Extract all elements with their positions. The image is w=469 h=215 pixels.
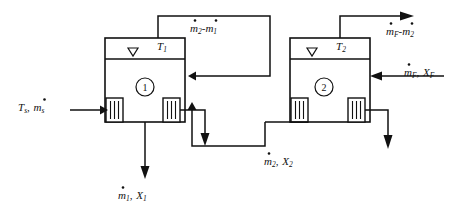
feed-inlet-label-text: mF, XF [404, 66, 435, 80]
vapor-1-to-2-arrowhead [188, 72, 196, 81]
label-vapor-effect2-outlet: mF-m2 [386, 22, 414, 39]
stream-product-effect1-pipe [141, 122, 150, 179]
effect-2-number-label: 2 [322, 82, 327, 93]
effect-1-temperature-label: T1 [157, 40, 167, 54]
stream-liquor-effect2-to-effect1-pipe [188, 102, 266, 146]
stream-condensate-effect2-pipe [365, 110, 393, 149]
liquor-2-flow-dot-icon [268, 152, 271, 155]
feed-inlet-arrowhead [370, 72, 382, 81]
effect-1-level-indicator-icon [128, 48, 138, 56]
label-steam-inlet: Ts, ms [18, 98, 46, 115]
feed-flow-dot-icon [408, 63, 411, 66]
liquor-2-to-1-arrowhead [188, 102, 197, 110]
label-liquor-effect2-to-effect1: m2, X2 [264, 152, 293, 169]
effect-2-tube-bundle-left [291, 98, 308, 122]
label-feed-inlet: mF, XF [404, 63, 435, 80]
effect-1-number-label: 1 [143, 82, 148, 93]
vapor-out-flow-dot-icon-a [390, 22, 393, 25]
evaporator-diagram: 1 T1 2 T2 [0, 0, 469, 215]
vapor-1-to-2-label-text: m2-m1 [190, 22, 217, 36]
steam-inlet-label-text: Ts, ms [18, 101, 45, 115]
label-product-effect1: m1, X1 [118, 186, 147, 203]
effect-2-tube-bundle-right [348, 98, 365, 122]
product-1-label-text: m1, X1 [118, 189, 147, 203]
vapor-1-flow-dot-icon [194, 19, 197, 22]
effect-1-tube-bundle-right [163, 98, 180, 122]
product-1-arrowhead [141, 166, 150, 179]
condensate-2-arrowhead [384, 135, 393, 149]
steam-flow-dot-icon [43, 98, 46, 101]
effect-1-tube-bundle-left [106, 98, 123, 122]
vapor-1-to-2-line [158, 16, 270, 76]
liquor-2-label-text: m2, X2 [264, 155, 293, 169]
vapor-out-flow-dot-icon-b [411, 22, 414, 25]
vapor-2-flow-dot-icon [215, 19, 218, 22]
stream-vapor-effect1-to-effect2-pipe [158, 16, 270, 81]
liquor-2-to-1-line [192, 110, 265, 146]
diagram-canvas: 1 T1 2 T2 [0, 0, 469, 215]
effect-2-level-indicator-icon [307, 48, 317, 56]
vapor-2-outlet-arrowhead [400, 12, 414, 21]
condensate-1-arrowhead [201, 133, 210, 146]
label-vapor-effect1-to-effect2: m2-m1 [190, 19, 217, 36]
vapor-2-outlet-label-text: mF-m2 [386, 25, 414, 39]
effect-2-temperature-label: T2 [336, 40, 346, 54]
product-1-flow-dot-icon [122, 186, 125, 189]
stream-steam-inlet-pipe [70, 106, 108, 115]
